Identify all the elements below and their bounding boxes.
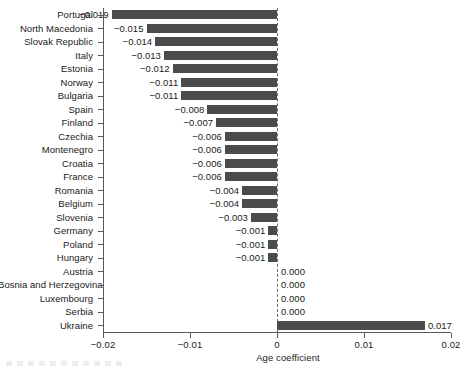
bar xyxy=(164,51,277,60)
table-row: −0.001 xyxy=(103,251,451,265)
x-axis-tick-label: 0.01 xyxy=(355,339,374,350)
bar xyxy=(268,240,277,249)
category-label: Luxembourg xyxy=(0,292,93,306)
y-axis-tick xyxy=(98,231,103,232)
bar-value-label: −0.014 xyxy=(123,35,153,49)
y-axis-tick xyxy=(98,325,103,326)
bar-value-label: −0.019 xyxy=(79,8,109,22)
table-row: −0.015 xyxy=(103,22,451,36)
bar-value-label: −0.001 xyxy=(236,251,266,265)
category-label: Romania xyxy=(0,184,93,198)
y-axis-tick xyxy=(98,177,103,178)
y-axis-tick xyxy=(98,96,103,97)
bar xyxy=(181,91,277,100)
category-axis-labels: PortugalNorth MacedoniaSlovak RepublicIt… xyxy=(0,8,98,332)
bar xyxy=(277,321,425,330)
bar-value-label: −0.001 xyxy=(236,238,266,252)
y-axis-tick xyxy=(98,298,103,299)
category-label: Croatia xyxy=(0,157,93,171)
table-row: −0.006 xyxy=(103,170,451,184)
table-row: −0.006 xyxy=(103,143,451,157)
bar-value-label: −0.011 xyxy=(149,89,178,103)
table-row: −0.006 xyxy=(103,130,451,144)
bar xyxy=(173,64,277,73)
bar-value-label: −0.012 xyxy=(140,62,170,76)
bar-value-label: −0.003 xyxy=(218,211,248,225)
y-axis-tick xyxy=(98,109,103,110)
bar xyxy=(242,199,277,208)
table-row: −0.007 xyxy=(103,116,451,130)
table-row: −0.019 xyxy=(103,8,451,22)
bar-value-label: 0.017 xyxy=(428,319,452,333)
bar-chart: PortugalNorth MacedoniaSlovak RepublicIt… xyxy=(0,0,471,369)
bar xyxy=(225,172,277,181)
category-label: Czechia xyxy=(0,130,93,144)
bar-value-label: −0.004 xyxy=(210,197,240,211)
table-row: −0.012 xyxy=(103,62,451,76)
bar-value-label: −0.013 xyxy=(131,49,161,63)
bar xyxy=(147,24,278,33)
category-label: Slovenia xyxy=(0,211,93,225)
category-label: Serbia xyxy=(0,305,93,319)
bar-value-label: −0.011 xyxy=(149,76,178,90)
x-axis-tick xyxy=(277,333,278,338)
y-axis-tick xyxy=(98,204,103,205)
category-label: Austria xyxy=(0,265,93,279)
category-label: Slovak Republic xyxy=(0,35,93,49)
bar xyxy=(155,37,277,46)
page-footer-artifact xyxy=(6,361,126,366)
category-label: Spain xyxy=(0,103,93,117)
y-axis-tick xyxy=(98,244,103,245)
x-axis-tick-label: −0.01 xyxy=(178,339,203,350)
x-axis-tick xyxy=(451,333,452,338)
bar xyxy=(216,118,277,127)
x-axis-tick-label: 0 xyxy=(274,339,279,350)
category-label: North Macedonia xyxy=(0,22,93,36)
table-row: −0.011 xyxy=(103,89,451,103)
y-axis-tick xyxy=(98,258,103,259)
bar xyxy=(181,78,277,87)
y-axis-tick xyxy=(98,69,103,70)
category-label: Bosnia and Herzegovina xyxy=(0,278,93,292)
y-axis-tick xyxy=(98,285,103,286)
y-axis-tick xyxy=(98,55,103,56)
y-axis-tick xyxy=(98,190,103,191)
y-axis-tick xyxy=(98,82,103,83)
bar xyxy=(207,105,277,114)
category-label: France xyxy=(0,170,93,184)
y-axis-tick xyxy=(98,28,103,29)
bar xyxy=(225,132,277,141)
bar-rows: −0.019−0.015−0.014−0.013−0.012−0.011−0.0… xyxy=(103,8,451,332)
bar-value-label: −0.006 xyxy=(192,157,222,171)
table-row: 0.000 xyxy=(103,305,451,319)
category-label: Italy xyxy=(0,49,93,63)
bar-value-label: 0.000 xyxy=(281,278,305,292)
table-row: 0.000 xyxy=(103,292,451,306)
table-row: −0.004 xyxy=(103,184,451,198)
category-label: Poland xyxy=(0,238,93,252)
x-axis-tick-label: −0.02 xyxy=(91,339,116,350)
bar-value-label: −0.001 xyxy=(236,224,266,238)
category-label: Finland xyxy=(0,116,93,130)
category-label: Belgium xyxy=(0,197,93,211)
category-label: Hungary xyxy=(0,251,93,265)
table-row: −0.003 xyxy=(103,211,451,225)
y-axis-tick xyxy=(98,136,103,137)
y-axis-tick xyxy=(98,163,103,164)
category-label: Estonia xyxy=(0,62,93,76)
bar-value-label: −0.006 xyxy=(192,170,222,184)
table-row: 0.000 xyxy=(103,265,451,279)
x-axis-tick xyxy=(190,333,191,338)
y-axis-tick xyxy=(98,123,103,124)
y-axis-tick xyxy=(98,15,103,16)
table-row: −0.008 xyxy=(103,103,451,117)
y-axis-tick xyxy=(98,150,103,151)
bar-value-label: −0.008 xyxy=(175,103,205,117)
y-axis-tick xyxy=(98,271,103,272)
x-axis-tick xyxy=(364,333,365,338)
category-label: Norway xyxy=(0,76,93,90)
bar-value-label: −0.006 xyxy=(192,143,222,157)
category-label: Ukraine xyxy=(0,319,93,333)
bar-value-label: −0.004 xyxy=(210,184,240,198)
table-row: −0.006 xyxy=(103,157,451,171)
